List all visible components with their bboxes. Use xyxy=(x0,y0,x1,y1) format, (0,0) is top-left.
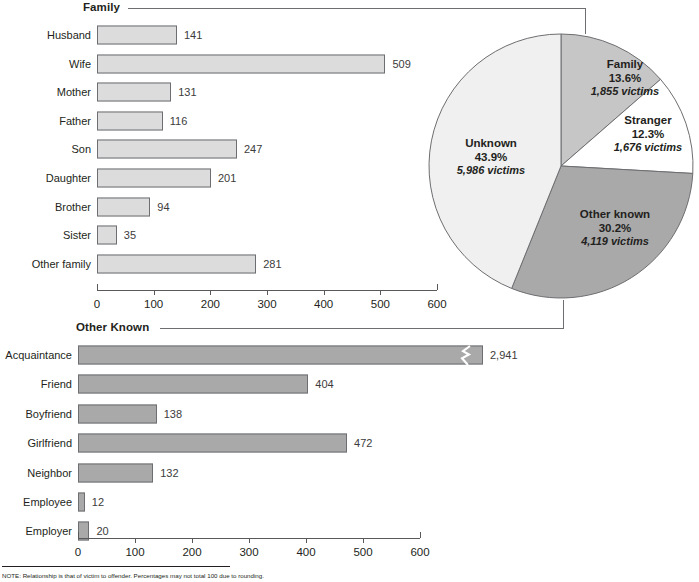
bar xyxy=(78,493,85,512)
x-axis-tick-label: 500 xyxy=(371,298,390,310)
pie-slice-victims: 4,119 victims xyxy=(555,235,675,248)
bar xyxy=(78,434,347,453)
bar xyxy=(97,140,237,159)
pie-slice-victims: 1,855 victims xyxy=(570,85,680,98)
category-label: Employee xyxy=(0,496,72,508)
x-axis-tick xyxy=(154,290,155,295)
pie-slice-percent: 13.6% xyxy=(570,71,680,85)
bar-value-label: 138 xyxy=(164,408,182,420)
x-axis-tick-label: 200 xyxy=(201,298,220,310)
x-axis-tick-label: 200 xyxy=(182,546,201,558)
bar-value-label: 509 xyxy=(392,58,410,70)
category-label: Father xyxy=(8,115,91,127)
bar-value-label: 132 xyxy=(160,467,178,479)
category-label: Sister xyxy=(8,229,91,241)
bar-value-label: 404 xyxy=(315,378,333,390)
category-label: Daughter xyxy=(8,172,91,184)
pie-slice-percent: 43.9% xyxy=(436,150,546,164)
bar xyxy=(78,346,483,365)
category-label: Son xyxy=(8,143,91,155)
category-label: Acquaintance xyxy=(0,349,72,361)
bar xyxy=(97,226,117,245)
x-axis-tick xyxy=(78,532,79,538)
bar xyxy=(78,404,157,423)
x-axis-tick xyxy=(363,538,364,543)
category-label: Girlfriend xyxy=(0,437,72,449)
pie-slice-percent: 30.2% xyxy=(555,221,675,235)
category-label: Husband xyxy=(8,29,91,41)
category-label: Mother xyxy=(8,86,91,98)
x-axis-tick xyxy=(97,284,98,290)
category-label: Brother xyxy=(8,201,91,213)
pie-slice-name: Family xyxy=(570,57,680,71)
x-axis-tick-label: 400 xyxy=(314,298,333,310)
figure-canvas: Family Husband141Wife509Mother131Father1… xyxy=(0,0,699,582)
x-axis-tick xyxy=(380,290,381,295)
x-axis-tick-label: 300 xyxy=(257,298,276,310)
pie-slice-victims: 5,986 victims xyxy=(436,164,546,177)
pie-slice-label: Unknown43.9%5,986 victims xyxy=(436,136,546,177)
section-label-family: Family xyxy=(83,1,120,13)
bar xyxy=(97,169,211,188)
note-divider xyxy=(2,566,230,567)
pie-slice-label: Other known30.2%4,119 victims xyxy=(555,207,675,248)
category-label: Neighbor xyxy=(0,467,72,479)
pie-slice-label: Stranger12.3%1,676 victims xyxy=(598,113,698,154)
x-axis-tick xyxy=(210,290,211,295)
bar xyxy=(78,463,153,482)
pie-slice-label: Family13.6%1,855 victims xyxy=(570,57,680,98)
category-label: Employer xyxy=(0,525,72,537)
bar xyxy=(78,375,308,394)
bar-value-label: 116 xyxy=(170,115,188,127)
category-label: Other family xyxy=(8,258,91,270)
section-label-other-known: Other Known xyxy=(76,321,149,333)
bar-value-label: 201 xyxy=(218,172,236,184)
x-axis-tick xyxy=(249,538,250,543)
pie-slice-percent: 12.3% xyxy=(598,127,698,141)
x-axis-tick-label: 600 xyxy=(410,546,429,558)
x-axis-tick xyxy=(267,290,268,295)
bar xyxy=(97,54,385,73)
bar-value-label: 35 xyxy=(124,229,136,241)
x-axis-tick-label: 0 xyxy=(94,298,100,310)
x-axis-tick-label: 0 xyxy=(75,546,81,558)
bar-value-label: 247 xyxy=(244,143,262,155)
bar xyxy=(97,254,256,273)
x-axis-tick xyxy=(135,538,136,543)
pie-slice-name: Unknown xyxy=(436,136,546,150)
category-label: Friend xyxy=(0,378,72,390)
bar-value-label: 94 xyxy=(157,201,169,213)
x-axis-tick-label: 100 xyxy=(125,546,144,558)
x-axis-tick xyxy=(324,290,325,295)
x-axis-tick-label: 500 xyxy=(353,546,372,558)
bar-value-label: 131 xyxy=(178,86,196,98)
bar-value-label: 12 xyxy=(92,496,104,508)
x-axis-tick-label: 100 xyxy=(144,298,163,310)
bar xyxy=(97,197,150,216)
bar-value-label: 20 xyxy=(96,525,108,537)
x-axis-tick xyxy=(306,538,307,543)
note-text: NOTE: Relationship is that of victim to … xyxy=(2,572,264,579)
x-axis-tick xyxy=(420,532,421,538)
x-axis-tick-label: 400 xyxy=(296,546,315,558)
bar xyxy=(97,111,163,130)
bar-value-label: 472 xyxy=(354,437,372,449)
bar-value-label: 281 xyxy=(263,258,281,270)
bar xyxy=(97,83,171,102)
axis-break-marker xyxy=(459,345,473,366)
pie-slice-name: Other known xyxy=(555,207,675,221)
category-label: Boyfriend xyxy=(0,408,72,420)
x-axis-tick-label: 300 xyxy=(239,546,258,558)
bar xyxy=(97,26,177,45)
category-label: Wife xyxy=(8,58,91,70)
pie-slice-name: Stranger xyxy=(598,113,698,127)
bar-value-label: 2,941 xyxy=(490,349,518,361)
pie-slice-victims: 1,676 victims xyxy=(598,141,698,154)
x-axis-tick xyxy=(192,538,193,543)
bar-value-label: 141 xyxy=(184,29,202,41)
